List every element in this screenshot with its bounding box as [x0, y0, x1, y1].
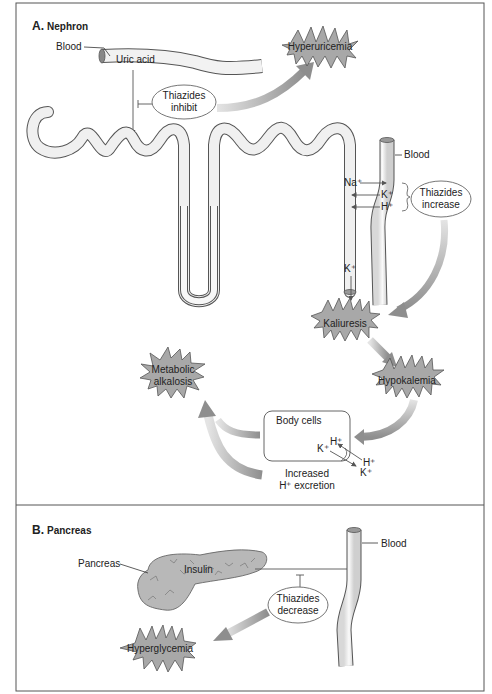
panel-a-letter: A.	[32, 19, 44, 33]
arrow-to-kaliuresis	[398, 220, 445, 310]
arrow-to-metabolic-alkalosis-2	[208, 415, 262, 475]
svg-text:Thiazides: Thiazides	[420, 187, 463, 198]
effect-kaliuresis: Kaliuresis	[311, 298, 380, 341]
label-cell-k: K⁺	[317, 443, 329, 454]
panel-b-title: Pancreas	[47, 525, 92, 536]
svg-text:inhibit: inhibit	[171, 102, 197, 113]
svg-text:Thiazides: Thiazides	[163, 90, 206, 101]
effect-hyperglycemia: Hyperglycemia	[120, 625, 196, 672]
label-uric-acid: Uric acid	[116, 54, 155, 65]
panel-a-title: Nephron	[47, 21, 88, 32]
label-h-excretion: H⁺ excretion	[279, 480, 335, 491]
panel-a-nephron: A. Nephron Blood Uric acid Thiazides inh…	[32, 19, 471, 491]
blood-vessel-right	[378, 138, 394, 306]
label-h-exchange: H⁺	[381, 201, 393, 212]
thiazides-increase-bubble: Thiazides increase	[411, 181, 471, 217]
svg-text:decrease: decrease	[277, 605, 319, 616]
svg-text:Hyperglycemia: Hyperglycemia	[127, 643, 194, 654]
effect-metabolic-alkalosis: Metabolic alkalosis	[140, 347, 205, 398]
label-insulin: Insulin	[184, 564, 213, 575]
label-blood-pancreas: Blood	[381, 538, 407, 549]
arrow-to-body-cells	[360, 400, 414, 437]
panel-b-letter: B.	[32, 523, 44, 537]
svg-text:Metabolic: Metabolic	[152, 364, 195, 375]
svg-text:increase: increase	[422, 199, 460, 210]
label-blood-top: Blood	[56, 41, 82, 52]
thiazides-inhibit-bubble: Thiazides inhibit	[152, 85, 216, 119]
svg-text:Body cells: Body cells	[276, 415, 322, 426]
label-out-k: K⁺	[360, 467, 372, 478]
label-k-exchange: K⁺	[381, 189, 393, 200]
thiazides-decrease-bubble: Thiazides decrease	[268, 587, 328, 623]
pancreas-organ: Insulin	[138, 550, 267, 610]
arrow-to-hyperuricemia	[217, 70, 305, 108]
effect-hyperuricemia: Hyperuricemia	[282, 26, 358, 68]
arrow-to-hypokalemia	[370, 340, 388, 358]
arrow-to-metabolic-alkalosis-1	[218, 420, 260, 435]
svg-text:Hypokalemia: Hypokalemia	[378, 375, 436, 386]
label-increased: Increased	[285, 468, 329, 479]
svg-text:Hyperuricemia: Hyperuricemia	[288, 41, 353, 52]
panel-b-pancreas: B. Pancreas Insulin Pancreas Thiazides d…	[32, 523, 407, 672]
label-blood-right: Blood	[404, 149, 430, 160]
arrow-to-hyperglycemia	[225, 612, 268, 635]
label-k-lumen: K⁺	[344, 263, 356, 274]
svg-text:alkalosis: alkalosis	[154, 376, 192, 387]
nephron-tubule	[32, 112, 356, 301]
blood-vessel-pancreas	[344, 528, 361, 667]
svg-text:Thiazides: Thiazides	[277, 593, 320, 604]
svg-text:Kaliuresis: Kaliuresis	[323, 318, 366, 329]
diagram-canvas: A. Nephron Blood Uric acid Thiazides inh…	[0, 0, 492, 694]
label-na: Na⁺	[344, 177, 362, 188]
label-pancreas: Pancreas	[78, 558, 120, 569]
